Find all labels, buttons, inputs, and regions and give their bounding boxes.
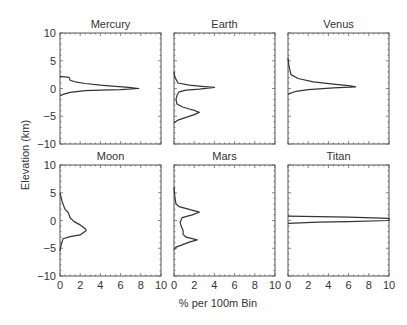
y-tick-label: −10: [37, 270, 56, 282]
x-tick-label: 6: [232, 279, 238, 291]
y-tick-label: 10: [44, 159, 56, 171]
x-tick-label: 4: [211, 279, 217, 291]
y-tick-label: 0: [50, 215, 56, 227]
plot-frame: [288, 33, 389, 144]
plot-frame: [174, 165, 275, 276]
plot-frame: [174, 33, 275, 144]
panel-earth: Earth: [174, 18, 275, 144]
x-tick-label: 8: [252, 279, 258, 291]
x-tick-label: 0: [285, 279, 291, 291]
y-tick-label: −5: [43, 110, 56, 122]
distribution-curve: [174, 72, 214, 123]
plot-frame: [60, 165, 161, 276]
panel-mars: Mars0246810: [171, 150, 281, 291]
panel-title: Mars: [212, 150, 237, 162]
panel-title: Earth: [211, 18, 237, 30]
x-tick-label: 2: [305, 279, 311, 291]
y-axis-label: Elevation (km): [19, 120, 31, 190]
x-tick-label: 10: [155, 279, 167, 291]
y-tick-label: 5: [50, 55, 56, 67]
panel-mercury: Mercury−10−50510: [37, 18, 161, 150]
distribution-curve: [60, 76, 139, 95]
x-tick-label: 10: [269, 279, 281, 291]
x-tick-label: 0: [171, 279, 177, 291]
panel-title: Mercury: [91, 18, 131, 30]
y-tick-label: −5: [43, 242, 56, 254]
x-tick-label: 6: [346, 279, 352, 291]
distribution-curve: [288, 58, 356, 94]
panel-title: Moon: [97, 150, 125, 162]
x-tick-label: 10: [383, 279, 395, 291]
y-tick-label: −10: [37, 138, 56, 150]
x-tick-label: 4: [97, 279, 103, 291]
y-tick-label: 5: [50, 187, 56, 199]
panel-moon: Moon−10−505100246810: [37, 150, 167, 291]
figure: Mercury−10−50510EarthVenusMoon−10−505100…: [0, 0, 407, 325]
x-tick-label: 2: [77, 279, 83, 291]
panel-title: Venus: [323, 18, 354, 30]
x-tick-label: 8: [138, 279, 144, 291]
x-axis-label: % per 100m Bin: [179, 297, 257, 309]
x-tick-label: 0: [57, 279, 63, 291]
plot-frame: [60, 33, 161, 144]
y-tick-label: 0: [50, 83, 56, 95]
x-tick-label: 4: [325, 279, 331, 291]
panel-titan: Titan0246810: [285, 150, 395, 291]
x-tick-label: 2: [191, 279, 197, 291]
distribution-curve: [60, 193, 86, 251]
x-tick-label: 6: [118, 279, 124, 291]
x-tick-label: 8: [366, 279, 372, 291]
distribution-curve: [174, 187, 199, 250]
panel-venus: Venus: [288, 18, 389, 144]
y-tick-label: 10: [44, 27, 56, 39]
distribution-curve: [288, 216, 389, 223]
panel-title: Titan: [326, 150, 350, 162]
